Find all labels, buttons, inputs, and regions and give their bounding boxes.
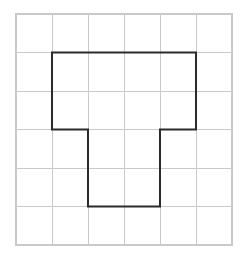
grid-and-shape-canvas — [0, 0, 241, 257]
figure-container — [0, 0, 241, 257]
